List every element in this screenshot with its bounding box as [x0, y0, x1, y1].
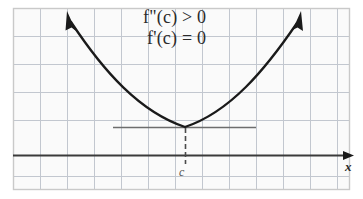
figure-canvas	[0, 0, 363, 199]
calculus-figure: f"(c) > 0 f'(c) = 0 c x	[0, 0, 363, 199]
grid-plate	[13, 8, 350, 190]
